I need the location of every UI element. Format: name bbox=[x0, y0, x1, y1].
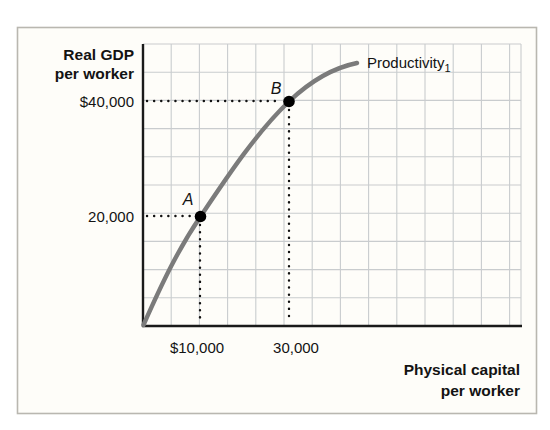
curve-label-subscript: 1 bbox=[445, 62, 451, 74]
x-tick-30000: 30,000 bbox=[273, 339, 319, 356]
point-b-marker bbox=[283, 96, 295, 108]
point-b-label: B bbox=[271, 80, 282, 97]
point-a-label: A bbox=[182, 191, 194, 208]
curve-label-text: Productivity bbox=[367, 54, 445, 71]
y-axis-title-line1: Real GDP bbox=[63, 46, 134, 63]
point-a-marker bbox=[195, 211, 207, 223]
x-axis-title-line1: Physical capital bbox=[404, 361, 520, 378]
x-axis-title-line2: per worker bbox=[441, 382, 520, 399]
y-tick-20000: 20,000 bbox=[88, 208, 134, 225]
chart-canvas: Real GDP per worker $40,000 20,000 $10,0… bbox=[0, 0, 550, 430]
production-function-figure: Real GDP per worker $40,000 20,000 $10,0… bbox=[0, 0, 550, 430]
y-axis-title-line2: per worker bbox=[55, 65, 134, 82]
y-tick-40000: $40,000 bbox=[80, 93, 134, 110]
x-tick-10000: $10,000 bbox=[170, 339, 224, 356]
